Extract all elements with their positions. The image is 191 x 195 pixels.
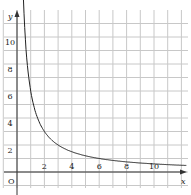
y-tick-label: 8 <box>7 65 12 74</box>
graph: xyO246810246810 <box>0 0 191 195</box>
y-tick-label: 6 <box>7 92 12 101</box>
y-tick-label: 2 <box>7 146 12 155</box>
x-tick-label: 6 <box>97 162 102 171</box>
x-tick-label: 8 <box>124 162 129 171</box>
x-axis-label: x <box>181 177 186 186</box>
x-tick-label: 4 <box>69 162 74 171</box>
origin-label: O <box>8 177 15 186</box>
y-tick-label: 4 <box>7 119 12 128</box>
y-axis-arrow-icon <box>15 10 20 17</box>
curve-series <box>23 0 186 165</box>
y-axis-label: y <box>7 12 13 21</box>
y-tick-label: 10 <box>5 38 15 47</box>
plot-area: xyO246810246810 <box>0 0 191 195</box>
x-axis-arrow-icon <box>180 170 187 175</box>
x-tick-label: 2 <box>42 162 47 171</box>
